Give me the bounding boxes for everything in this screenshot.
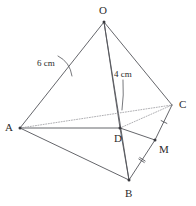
- vertex-label-O: O: [99, 5, 107, 16]
- vertex-dot-M: [154, 139, 157, 142]
- vertex-dot-A: [19, 127, 22, 130]
- vertex-label-C: C: [179, 99, 186, 110]
- vertex-label-D: D: [114, 133, 122, 144]
- edge-BM: [129, 140, 155, 180]
- vertex-label-A: A: [5, 122, 13, 133]
- edges-layer: [20, 22, 172, 180]
- edge-MC: [155, 105, 172, 140]
- length-OD-leader: [122, 80, 123, 110]
- edge-AB: [20, 128, 129, 180]
- edge-OA: [20, 22, 104, 128]
- edge-DM: [120, 128, 155, 140]
- tick-marks-layer: [139, 121, 167, 163]
- edge-DC: [120, 105, 172, 128]
- vertex-dot-O: [103, 21, 106, 24]
- vertex-dot-B: [128, 179, 131, 182]
- edge-AC: [20, 105, 172, 128]
- length-OD-label: 4 cm: [114, 70, 132, 79]
- geometry-figure: 6 cm4 cmOABCDM: [0, 0, 196, 206]
- vertex-label-M: M: [159, 144, 169, 155]
- vertex-dot-D: [119, 127, 122, 130]
- length-OA-label: 6 cm: [37, 59, 55, 68]
- figure-canvas: [0, 0, 196, 206]
- length-OA-leader: [58, 56, 72, 76]
- vertex-label-B: B: [125, 188, 132, 199]
- vertex-dots-layer: [19, 21, 157, 182]
